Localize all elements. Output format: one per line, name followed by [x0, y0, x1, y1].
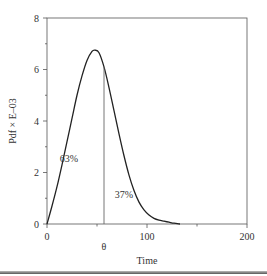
y-tick-label: 4	[34, 116, 39, 127]
y-tick-label: 2	[34, 167, 39, 178]
axes	[47, 18, 247, 224]
y-tick-label: 8	[34, 13, 39, 24]
pdf-chart: 024680100200 63%37%θ Time Pdf × E–03	[0, 0, 267, 276]
pdf-curve	[47, 50, 180, 224]
x-tick-label: 100	[140, 231, 155, 242]
y-tick-label: 0	[34, 219, 39, 230]
plot-frame	[47, 18, 247, 224]
ticks: 024680100200	[34, 13, 255, 243]
percent-annotation: 63%	[60, 153, 78, 164]
bottom-divider	[0, 271, 267, 274]
series	[47, 50, 180, 224]
y-tick-label: 6	[34, 64, 39, 75]
percent-annotation: 37%	[115, 189, 133, 200]
x-tick-label: 0	[45, 231, 50, 242]
x-axis-label: Time	[137, 255, 158, 266]
theta-label: θ	[102, 241, 107, 252]
y-axis-label: Pdf × E–03	[7, 98, 18, 144]
x-tick-label: 200	[240, 231, 255, 242]
